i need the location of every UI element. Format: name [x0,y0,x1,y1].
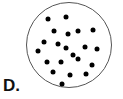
scatter-dot [51,70,56,75]
scatter-dot [84,72,89,77]
scatter-dot [76,29,81,34]
scatter-dot [90,63,95,68]
scatter-dot [68,73,73,78]
figure-panel-d: D. [0,0,123,99]
scatter-dot [52,29,57,34]
scatter-dot [95,47,100,52]
scatter-dot [91,28,96,33]
scatter-dot [64,15,69,20]
scatter-dot [45,60,50,65]
scatter-dot [56,42,61,47]
scatter-dot [46,17,51,22]
scatter-dot [42,40,47,45]
scatter-dot [64,46,69,51]
scatter-dot [59,60,64,65]
scatter-dot [83,45,88,50]
scatter-dot [60,82,65,87]
scatter-dot [76,57,81,62]
scatter-dot [36,49,41,54]
scatter-dot [66,32,71,37]
panel-label: D. [3,76,20,95]
scatter-dot [71,53,76,58]
